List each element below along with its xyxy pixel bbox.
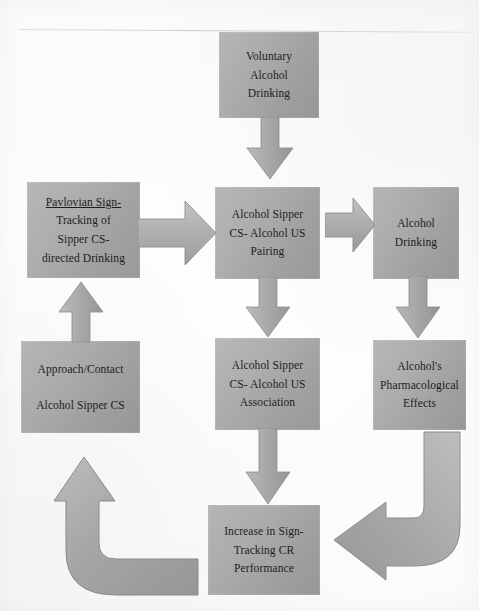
arrow-pairing-to-alcohol-drinking-right-icon xyxy=(325,196,377,254)
node-line: Alcohol xyxy=(250,66,288,85)
node-line: Voluntary xyxy=(246,47,292,66)
node-line: Approach/Contact xyxy=(38,360,124,379)
node-alcohol-sipper-cs-us-pairing: Alcohol Sipper CS- Alcohol US Pairing xyxy=(215,187,320,279)
node-line: Pavlovian Sign- xyxy=(46,193,121,212)
node-pavlovian-sign-tracking: Pavlovian Sign- Tracking of Sipper CS- d… xyxy=(27,182,140,278)
node-alcohol-drinking: Alcohol Drinking xyxy=(373,187,459,279)
node-line: Drinking xyxy=(248,84,290,103)
node-line: Tracking of xyxy=(56,211,111,230)
node-alcohols-pharmacological-effects: Alcohol's Pharmacological Effects xyxy=(373,340,466,430)
node-line: Effects xyxy=(403,394,436,413)
arrow-pairing-to-association-down-icon xyxy=(244,277,292,339)
arrow-association-to-increase-sign-tracking-down-icon xyxy=(244,428,292,506)
node-line: Alcohol Sipper CS xyxy=(36,396,125,415)
node-alcohol-sipper-cs-us-association: Alcohol Sipper CS- Alcohol US Associatio… xyxy=(215,338,320,430)
node-line: Tracking CR xyxy=(234,541,294,560)
node-line: directed Drinking xyxy=(42,249,125,268)
node-line: CS- Alcohol US xyxy=(229,375,305,394)
arrow-pavlovian-to-pairing-right-icon xyxy=(138,198,218,268)
node-line: Performance xyxy=(234,559,294,578)
node-line: Pairing xyxy=(251,242,285,261)
node-line: Sipper CS- xyxy=(58,230,110,249)
node-increase-in-sign-tracking-cr-performance: Increase in Sign- Tracking CR Performanc… xyxy=(208,505,320,595)
node-line: Alcohol's xyxy=(397,357,442,376)
diagram-canvas: Voluntary Alcohol Drinking Pavlovian Sig… xyxy=(0,0,479,611)
node-line: Increase in Sign- xyxy=(224,522,304,541)
node-line: Pharmacological xyxy=(380,376,459,395)
node-line: Alcohol xyxy=(397,214,435,233)
node-line: Drinking xyxy=(395,233,437,252)
arrow-pharmacological-effects-to-increase-sign-tracking-elbow-left-icon xyxy=(330,430,466,582)
arrow-alcohol-drinking-to-pharmacological-effects-down-icon xyxy=(394,276,442,340)
arrow-increase-sign-tracking-to-approach-contact-elbow-up-icon xyxy=(54,455,200,603)
node-line: CS- Alcohol US xyxy=(229,224,305,243)
arrow-voluntary-to-pairing-down-icon xyxy=(245,117,295,181)
node-line: Alcohol Sipper xyxy=(232,356,303,375)
arrow-approach-contact-to-pavlovian-up-icon xyxy=(58,281,104,343)
node-approach-contact-alcohol-sipper-cs: Approach/Contact Alcohol Sipper CS xyxy=(21,341,140,433)
node-line: Association xyxy=(240,393,295,412)
node-voluntary-alcohol-drinking: Voluntary Alcohol Drinking xyxy=(219,32,319,118)
node-line: Alcohol Sipper xyxy=(232,205,303,224)
